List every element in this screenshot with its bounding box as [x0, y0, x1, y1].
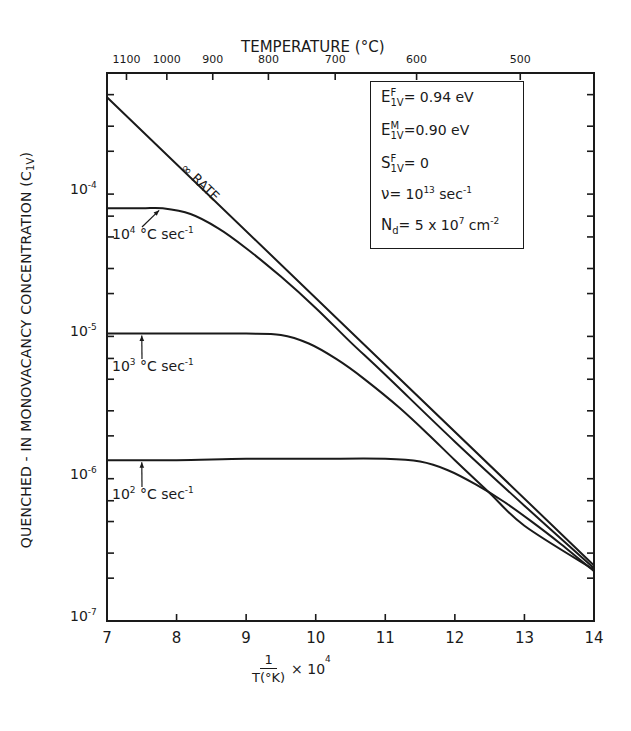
top-tick-label: 700 [325, 53, 346, 66]
y-axis-title: QUENCHED - IN MONOVACANCY CONCENTRATION … [18, 152, 37, 548]
cooling-rate-label: 102 °C sec-1 [112, 485, 194, 502]
x-tick-label: 10 [306, 629, 325, 647]
parameter-legend-box: EF1V= 0.94 eVEM1V=0.90 eVSF1V= 0ν= 1013 … [370, 81, 524, 249]
x-tick-label: 7 [102, 629, 112, 647]
legend-entry: EF1V= 0.94 eV [381, 88, 474, 108]
x-tick-label: 14 [584, 629, 603, 647]
x-tick-label: 12 [445, 629, 464, 647]
label-arrows [139, 210, 159, 487]
x-axis-title: 1 T(°K) × 104 [252, 652, 331, 685]
cooling-rate-label: 104 °C sec-1 [112, 225, 194, 242]
legend-entry: SF1V= 0 [381, 154, 429, 174]
y-tick-label: 10-6 [70, 465, 97, 482]
y-tick-label: 10-5 [70, 322, 97, 339]
top-tick-label: 1100 [112, 53, 140, 66]
y-tick-label: 10-4 [70, 180, 97, 197]
x-tick-label: 11 [376, 629, 395, 647]
y-tick-label: 10-7 [70, 607, 97, 624]
top-tick-label: 800 [258, 53, 279, 66]
cooling-rate-label: 103 °C sec-1 [112, 357, 194, 374]
top-tick-label: 900 [202, 53, 223, 66]
x-axis-fraction: 1 T(°K) [252, 652, 285, 685]
top-tick-label: 600 [406, 53, 427, 66]
x-tick-label: 13 [515, 629, 534, 647]
y-axis-title-wrap: QUENCHED - IN MONOVACANCY CONCENTRATION … [12, 80, 42, 620]
series-curve-3 [107, 459, 594, 572]
top-tick-label: 500 [510, 53, 531, 66]
x-tick-label: 8 [172, 629, 182, 647]
x-tick-label: 9 [241, 629, 251, 647]
legend-entry: N d= 5 x 107 cm-2 [381, 216, 499, 236]
legend-entry: EM1V=0.90 eV [381, 121, 469, 141]
legend-entry: ν= 1013 sec-1 [381, 185, 472, 203]
top-tick-label: 1000 [153, 53, 181, 66]
